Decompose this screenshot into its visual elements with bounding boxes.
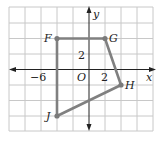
vertex-g-point <box>102 36 107 41</box>
y-axis-label: y <box>92 8 100 21</box>
coordinate-plane-figure: F G H J y x O −6 2 2 <box>0 0 161 142</box>
y-axis-down-arrow-icon <box>87 124 92 131</box>
tick-label-x-2: 2 <box>101 71 108 84</box>
axes <box>13 10 152 127</box>
x-axis-label: x <box>146 71 153 84</box>
vertex-j-label: J <box>44 110 51 123</box>
tick-label-y-2: 2 <box>78 49 85 62</box>
x-axis-left-arrow-icon <box>9 67 16 72</box>
vertex-f-label: F <box>43 32 52 45</box>
origin-label: O <box>77 71 86 84</box>
vertex-h-point <box>118 82 123 87</box>
vertex-g-label: G <box>109 32 118 45</box>
tick-label-x-neg6: −6 <box>30 71 46 84</box>
vertex-f-point <box>54 36 59 41</box>
vertex-h-label: H <box>124 79 135 92</box>
coordinate-plane: F G H J y x O −6 2 2 <box>0 0 161 142</box>
vertex-j-point <box>54 113 59 118</box>
